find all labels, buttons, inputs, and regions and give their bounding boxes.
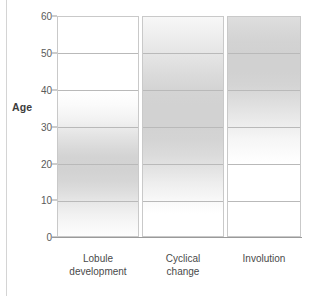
category-label-involution: Involution	[227, 252, 301, 265]
gridline-40	[58, 90, 138, 91]
category-label-lobule-development: Lobule development	[57, 252, 139, 278]
gridline-10	[143, 201, 223, 202]
plot-area	[57, 16, 301, 237]
category-label-line2: development	[57, 265, 139, 278]
category-label-line1: Cyclical	[142, 252, 224, 265]
y-tick-label-0: 0	[26, 232, 52, 243]
category-label-line1: Involution	[227, 252, 301, 265]
category-label-line1: Lobule	[57, 252, 139, 265]
page-left-rule	[6, 0, 7, 296]
y-tick-label-60: 60	[26, 11, 52, 22]
y-tick-label-30: 30	[26, 122, 52, 133]
y-tick-label-10: 10	[26, 195, 52, 206]
gridline-20	[228, 164, 300, 165]
gridline-20	[143, 164, 223, 165]
category-label-cyclical-change: Cyclical change	[142, 252, 224, 278]
gridline-50	[228, 53, 300, 54]
column-lobule-development	[57, 16, 139, 237]
gridline-30	[143, 127, 223, 128]
gridline-50	[58, 53, 138, 54]
category-label-line2: change	[142, 265, 224, 278]
gridline-10	[228, 201, 300, 202]
y-tick-label-40: 40	[26, 85, 52, 96]
column-involution	[227, 16, 301, 237]
y-axis-ticks: 60 50 40 30 20 10 0	[22, 0, 52, 296]
gridline-20	[58, 164, 138, 165]
gridline-40	[143, 90, 223, 91]
x-axis-baseline	[52, 237, 302, 238]
y-tick-label-50: 50	[26, 48, 52, 59]
column-cyclical-change	[142, 16, 224, 237]
gridline-10	[58, 201, 138, 202]
y-tick-label-20: 20	[26, 159, 52, 170]
gridline-40	[228, 90, 300, 91]
chart-figure: Age 60 50 40 30 20 10 0	[0, 0, 312, 296]
gridline-30	[58, 127, 138, 128]
gridline-50	[143, 53, 223, 54]
gridline-30	[228, 127, 300, 128]
